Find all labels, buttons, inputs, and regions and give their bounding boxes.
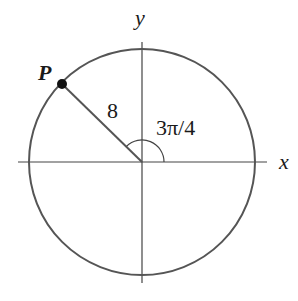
circle-diagram: y x P 8 3π/4 [0, 0, 298, 301]
radius-label: 8 [107, 98, 118, 123]
x-axis-label: x [278, 149, 289, 174]
y-axis-label: y [133, 5, 145, 30]
radius-segment [62, 84, 142, 162]
point-p [57, 79, 67, 89]
angle-label: 3π/4 [156, 115, 195, 140]
point-label: P [37, 60, 52, 85]
